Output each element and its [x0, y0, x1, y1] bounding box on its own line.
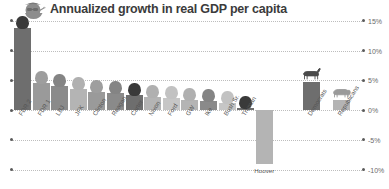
bar-fdr-2[interactable]: [14, 28, 31, 110]
bar-hoover[interactable]: [256, 110, 273, 164]
gridline-marker: [10, 79, 13, 82]
y-axis-tick-label: 0%: [368, 107, 378, 114]
gridline-marker: [10, 49, 13, 52]
portrait-icon-fdr-1: [35, 71, 48, 84]
portrait-icon-jfk: [72, 77, 85, 90]
portrait-icon-clinton: [90, 80, 103, 93]
portrait-icon-carter: [128, 83, 141, 96]
portrait-icon-nixon: [146, 85, 159, 98]
portrait-icon-lbj: [53, 74, 66, 87]
gridline: [12, 140, 364, 141]
portrait-icon-gw: [183, 88, 196, 101]
gridline-marker: [362, 79, 365, 82]
gridline-marker: [10, 19, 13, 22]
gridline-marker: [362, 138, 365, 141]
gridline-marker: [362, 109, 365, 112]
gridline-marker: [10, 109, 13, 112]
y-axis-tick-label: 5%: [368, 77, 378, 84]
gridline-marker: [362, 49, 365, 52]
portrait-icon-fdr-2: [16, 16, 29, 29]
gridline-marker: [10, 138, 13, 141]
plot-area: 15%10%5%0%-5%-10%FDR 2FDR 1LBJJFKClinton…: [0, 0, 389, 189]
gridline-marker: [10, 168, 13, 171]
gridline-marker: [362, 19, 365, 22]
x-axis-label-hoover: Hoover: [247, 167, 282, 174]
y-axis-tick-label: 10%: [368, 47, 382, 54]
portrait-icon-ike: [202, 89, 215, 102]
donkey-icon: [301, 68, 322, 82]
gridline-marker: [362, 168, 365, 171]
gridline: [12, 51, 364, 52]
gridline: [12, 170, 364, 171]
y-axis-tick-label: -10%: [368, 166, 384, 173]
portrait-icon-reagan: [109, 81, 122, 94]
chart-root: Annualized growth in real GDP per capita…: [0, 0, 389, 189]
y-axis-tick-label: -5%: [368, 136, 380, 143]
portrait-icon-ford: [165, 86, 178, 99]
y-axis-tick-label: 15%: [368, 17, 382, 24]
gridline: [12, 21, 364, 22]
